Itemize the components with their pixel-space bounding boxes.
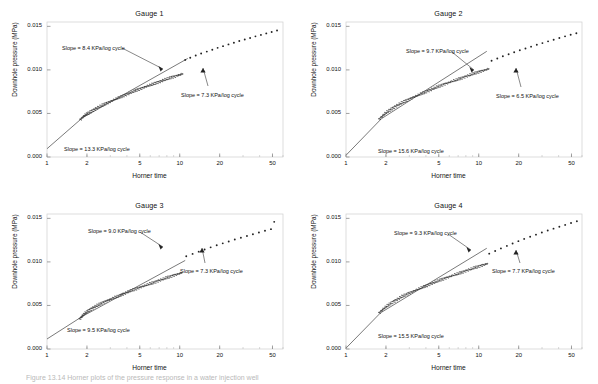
x-tick-label: 2 [378,352,394,358]
panel-gauge-2: Gauge 2 Downhole pressure (MPa) Horner t… [299,0,598,192]
y-tick-label: 0.005 [8,109,42,115]
slope-annotation: Slope = 15.5 KPa/log cycle [378,333,444,339]
y-tick-label: 0.000 [8,345,42,351]
x-tick-label: 5 [431,160,447,166]
figure-caption: Figure 13.14 Horner plots of the pressur… [26,374,586,384]
y-tick-label: 0.010 [307,258,341,264]
x-tick-label: 50 [563,160,579,166]
x-tick-label: 10 [471,160,487,166]
slope-annotation: Slope = 9.7 KPa/log cycle [406,48,469,54]
x-tick-label: 20 [511,160,527,166]
x-tick-label: 1 [39,160,55,166]
slope-annotation: Slope = 9.5 KPa/log cycle [67,327,130,333]
x-tick-label: 50 [264,160,280,166]
slope-annotation: Slope = 8.4 KPa/log cycle [62,45,125,51]
y-tick-label: 0.010 [307,66,341,72]
y-tick-label: 0.005 [307,301,341,307]
y-tick-label: 0.000 [8,153,42,159]
x-tick-label: 50 [264,352,280,358]
y-tick-label: 0.005 [307,109,341,115]
slope-annotation: Slope = 9.3 KPa/log cycle [394,230,457,236]
slope-annotation: Slope = 6.5 KPa/log cycle [496,93,559,99]
x-tick-label: 5 [431,352,447,358]
y-tick-label: 0.015 [307,22,341,28]
y-tick-label: 0.010 [8,66,42,72]
panel-gauge-3: Gauge 3 Downhole pressure (MPa) Horner t… [0,192,299,384]
x-tick-label: 10 [172,160,188,166]
panel-gauge-4: Gauge 4 Downhole pressure (MPa) Horner t… [299,192,598,384]
slope-annotation: Slope = 15.6 KPa/log cycle [378,148,444,154]
x-tick-label: 1 [338,160,354,166]
x-tick-label: 5 [132,160,148,166]
x-tick-label: 5 [132,352,148,358]
y-tick-label: 0.015 [8,22,42,28]
slope-annotation: Slope = 13.3 KPa/log cycle [64,146,130,152]
y-tick-label: 0.015 [307,214,341,220]
panel-gauge-1: Gauge 1 Downhole pressure (MPa) Horner t… [0,0,299,192]
y-tick-label: 0.000 [307,345,341,351]
x-tick-label: 10 [172,352,188,358]
x-tick-label: 2 [79,160,95,166]
y-tick-label: 0.015 [8,214,42,220]
y-tick-label: 0.005 [8,301,42,307]
x-tick-label: 2 [378,160,394,166]
slope-annotation: Slope = 7.3 KPa/log cycle [181,92,244,98]
x-tick-label: 2 [79,352,95,358]
x-tick-label: 20 [511,352,527,358]
horner-plot-figure: Gauge 1 Downhole pressure (MPa) Horner t… [0,0,598,384]
slope-annotation: Slope = 7.7 KPa/log cycle [492,268,555,274]
slope-annotation: Slope = 7.3 KPa/log cycle [180,268,243,274]
x-tick-label: 1 [338,352,354,358]
y-tick-label: 0.000 [307,153,341,159]
x-tick-label: 20 [212,352,228,358]
x-tick-label: 20 [212,160,228,166]
slope-annotation: Slope = 9.0 KPa/log cycle [88,228,151,234]
y-tick-label: 0.010 [8,258,42,264]
x-tick-label: 50 [563,352,579,358]
x-tick-label: 1 [39,352,55,358]
x-tick-label: 10 [471,352,487,358]
